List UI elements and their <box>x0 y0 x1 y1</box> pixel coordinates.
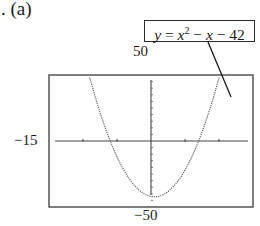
graph-plot <box>0 0 260 226</box>
axes <box>55 80 248 200</box>
parabola-curve <box>89 78 220 197</box>
callout-leader-line <box>208 42 231 97</box>
